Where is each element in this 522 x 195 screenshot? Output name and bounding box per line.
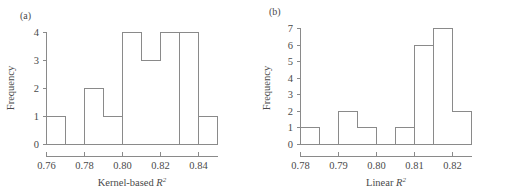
panel-a-y-axis-title: Frequency — [5, 65, 16, 110]
panel-a-x-axis-title-base: Kernel-based — [98, 177, 157, 188]
panel-b-ytick-3: 3 — [288, 89, 293, 100]
panel-a-ytick-1: 1 — [34, 111, 39, 122]
bar-b-1 — [301, 128, 320, 145]
panel-b-ytick-2: 2 — [288, 106, 293, 117]
panel-a-x-axis-title: Kernel-based R2 — [98, 176, 167, 188]
panel-b-bars — [301, 29, 472, 145]
figure-container: (a) 4 3 2 1 0 Frequency — [0, 0, 522, 195]
panel-a-x-axis: 0.76 0.78 0.80 0.82 0.84 — [37, 152, 217, 172]
panel-b-xtick-4: 0.82 — [443, 160, 461, 171]
panel-b-y-axis: 7 6 5 4 3 2 1 0 — [288, 23, 301, 150]
panel-a-svg: (a) 4 3 2 1 0 Frequency — [0, 0, 261, 195]
panel-a-xtick-3: 0.82 — [151, 160, 169, 171]
panel-b-x-axis-title-base: Linear — [366, 177, 396, 188]
bar-a-9 — [199, 117, 218, 145]
panel-b-x-axis: 0.78 0.79 0.80 0.81 0.82 — [291, 152, 471, 172]
bar-a-1 — [47, 117, 66, 145]
bar-b-3-4 — [339, 111, 377, 144]
panel-a-ytick-0: 0 — [34, 139, 39, 150]
panel-b-svg: (b) 7 6 5 4 3 2 1 0 Frequency — [261, 0, 522, 195]
panel-b-ytick-0: 0 — [288, 139, 293, 150]
panel-b-ytick-1: 1 — [288, 122, 293, 133]
panel-b-xtick-2: 0.80 — [367, 160, 385, 171]
panel-a-xtick-2: 0.80 — [113, 160, 131, 171]
panel-a-xtick-0: 0.76 — [37, 160, 55, 171]
panel-b-ytick-6: 6 — [288, 40, 293, 51]
histogram-panel-a: (a) 4 3 2 1 0 Frequency — [0, 0, 261, 195]
panel-b-label: (b) — [269, 6, 281, 18]
panel-a-x-axis-title-sup: 2 — [163, 176, 167, 184]
panel-b-xtick-0: 0.78 — [291, 160, 309, 171]
panel-b-xtick-1: 0.79 — [329, 160, 347, 171]
panel-a-label: (a) — [20, 10, 31, 22]
panel-a-y-axis: 4 3 2 1 0 — [34, 27, 47, 150]
panel-a-bars — [47, 33, 218, 145]
bar-a-3-4 — [85, 89, 123, 145]
panel-b-ytick-4: 4 — [288, 73, 294, 84]
histogram-panel-b: (b) 7 6 5 4 3 2 1 0 Frequency — [261, 0, 522, 195]
panel-b-x-axis-title: Linear R2 — [366, 176, 406, 188]
panel-b-x-axis-title-sup: 2 — [402, 176, 406, 184]
panel-b-xtick-3: 0.81 — [405, 160, 423, 171]
panel-a-ytick-3: 3 — [34, 55, 39, 66]
panel-b-ytick-5: 5 — [288, 56, 293, 67]
panel-a-xtick-4: 0.84 — [189, 160, 208, 171]
panel-a-xtick-1: 0.78 — [75, 160, 93, 171]
panel-a-ytick-2: 2 — [34, 83, 39, 94]
panel-a-ytick-4: 4 — [34, 27, 40, 38]
panel-b-ytick-7: 7 — [288, 23, 293, 34]
panel-b-y-axis-title: Frequency — [261, 65, 272, 110]
